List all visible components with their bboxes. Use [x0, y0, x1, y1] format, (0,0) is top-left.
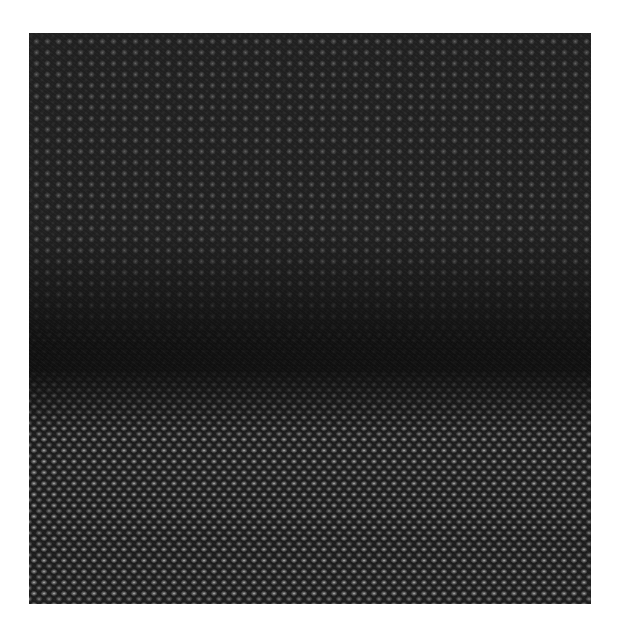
interface-band — [29, 233, 591, 433]
page: Atomic lattice with two crystalline regi… — [0, 0, 619, 630]
micrograph-image — [29, 33, 591, 604]
